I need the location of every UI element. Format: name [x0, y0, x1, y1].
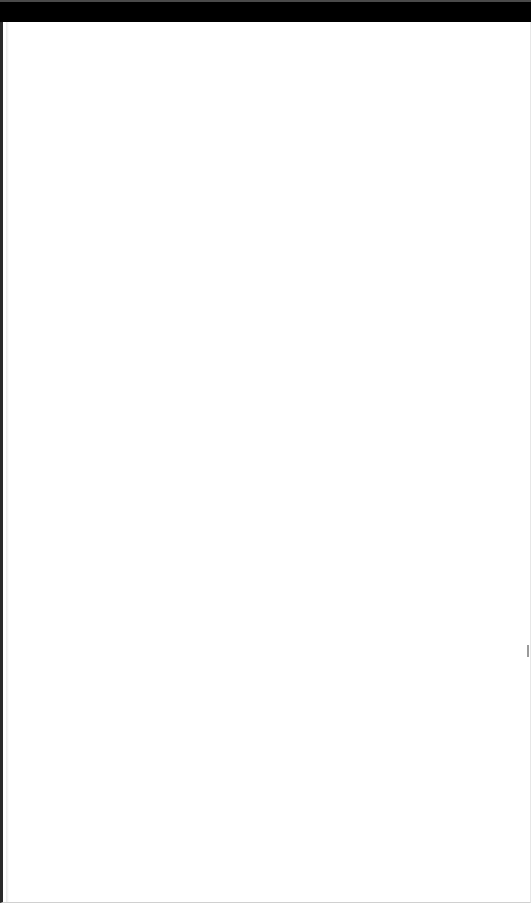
- blank-content-area[interactable]: [0, 22, 531, 903]
- scrollbar-thumb[interactable]: [527, 645, 529, 657]
- title-bar[interactable]: [0, 2, 531, 22]
- app-window: [0, 0, 531, 903]
- left-edge-shadow: [6, 22, 9, 902]
